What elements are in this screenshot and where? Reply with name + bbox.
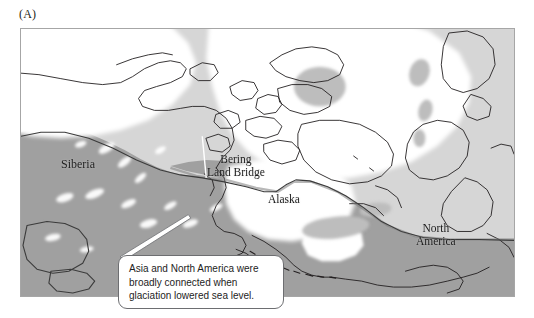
callout-line-3: glaciation lowered sea level.: [129, 289, 274, 303]
callout-line-2: broadly connected when: [129, 276, 274, 290]
map-label-north-america: North America: [416, 222, 456, 247]
panel-label: (A): [19, 7, 36, 22]
map-label-bering-land-bridge: Bering Land Bridge: [207, 153, 265, 178]
map-label-siberia: Siberia: [61, 158, 95, 171]
map-label-alaska: Alaska: [268, 193, 300, 206]
callout-line-1: Asia and North America were: [129, 262, 274, 276]
callout-box: Asia and North America were broadly conn…: [118, 255, 284, 309]
